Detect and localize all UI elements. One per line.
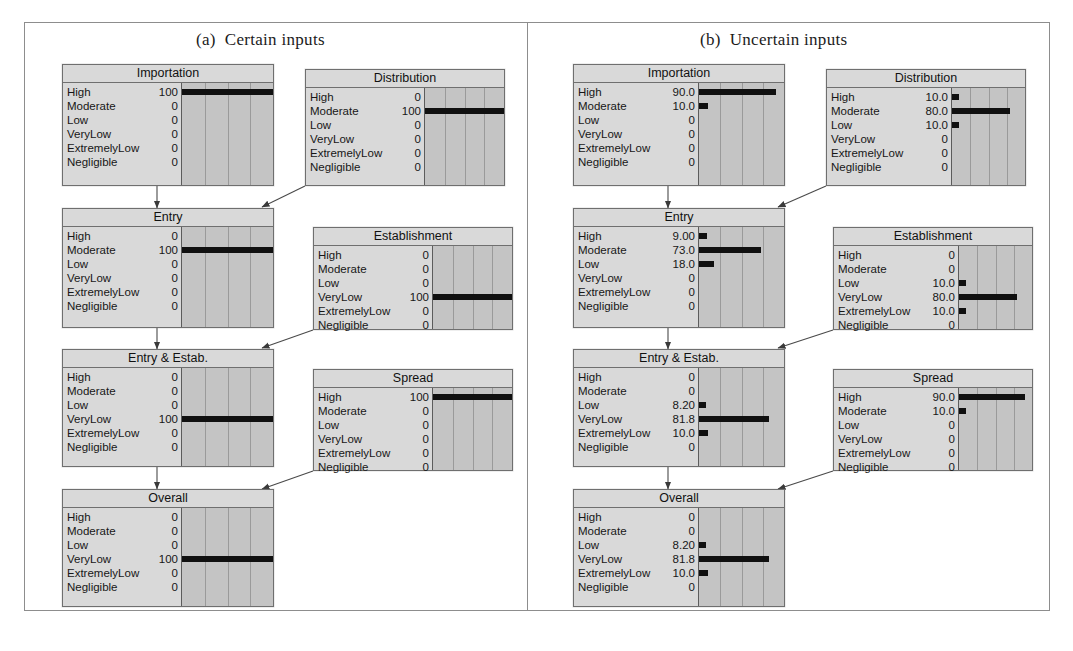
node-spread-a[interactable]: SpreadHigh100Moderate0Low0VeryLow0Extrem…	[313, 369, 513, 471]
state-row[interactable]: High0	[306, 90, 424, 104]
state-row[interactable]: VeryLow0	[834, 432, 958, 446]
state-row[interactable]: Moderate0	[574, 384, 698, 398]
state-row[interactable]: ExtremelyLow0	[574, 141, 698, 155]
state-row[interactable]: VeryLow0	[63, 271, 181, 285]
state-row[interactable]: Low0	[63, 398, 181, 412]
state-row[interactable]: High0	[63, 229, 181, 243]
state-row[interactable]: Negligible0	[306, 160, 424, 174]
state-row[interactable]: ExtremelyLow10.0	[574, 566, 698, 580]
state-row[interactable]: Negligible0	[574, 580, 698, 594]
state-row[interactable]: High0	[574, 510, 698, 524]
state-row[interactable]: Low0	[314, 276, 432, 290]
state-row[interactable]: VeryLow80.0	[834, 290, 958, 304]
state-row[interactable]: Low8.20	[574, 398, 698, 412]
state-row[interactable]: VeryLow81.8	[574, 552, 698, 566]
state-label: Low	[574, 113, 689, 127]
state-row[interactable]: High100	[314, 390, 432, 404]
state-row[interactable]: High0	[314, 248, 432, 262]
state-row[interactable]: Moderate0	[314, 262, 432, 276]
state-row[interactable]: ExtremelyLow0	[63, 426, 181, 440]
state-row[interactable]: ExtremelyLow0	[63, 566, 181, 580]
state-row[interactable]: Negligible0	[574, 440, 698, 454]
state-row[interactable]: Negligible0	[827, 160, 951, 174]
state-row[interactable]: Negligible0	[63, 299, 181, 313]
state-row[interactable]: VeryLow81.8	[574, 412, 698, 426]
state-row[interactable]: VeryLow100	[63, 552, 181, 566]
state-row[interactable]: ExtremelyLow0	[314, 304, 432, 318]
state-row[interactable]: VeryLow0	[574, 271, 698, 285]
state-row[interactable]: Low10.0	[834, 276, 958, 290]
state-row[interactable]: High90.0	[574, 85, 698, 99]
state-row[interactable]: VeryLow0	[306, 132, 424, 146]
state-row[interactable]: Negligible0	[63, 580, 181, 594]
node-entry-estab-b[interactable]: Entry & Estab.High0Moderate0Low8.20VeryL…	[573, 349, 785, 467]
state-row[interactable]: Moderate0	[314, 404, 432, 418]
node-entry-a[interactable]: EntryHigh0Moderate100Low0VeryLow0Extreme…	[62, 208, 274, 328]
state-row[interactable]: Negligible0	[834, 318, 958, 332]
state-row[interactable]: Low0	[63, 538, 181, 552]
node-overall-b[interactable]: OverallHigh0Moderate0Low8.20VeryLow81.8E…	[573, 489, 785, 607]
state-row[interactable]: High0	[834, 248, 958, 262]
state-row[interactable]: Moderate0	[574, 524, 698, 538]
node-importation-a[interactable]: ImportationHigh100Moderate0Low0VeryLow0E…	[62, 64, 274, 186]
state-row[interactable]: Low0	[306, 118, 424, 132]
state-row[interactable]: ExtremelyLow0	[63, 141, 181, 155]
state-row[interactable]: Negligible0	[574, 155, 698, 169]
state-row[interactable]: High0	[574, 370, 698, 384]
node-distribution-b[interactable]: DistributionHigh10.0Moderate80.0Low10.0V…	[826, 69, 1026, 186]
state-row[interactable]: Low0	[834, 418, 958, 432]
state-row[interactable]: ExtremelyLow0	[827, 146, 951, 160]
state-row[interactable]: ExtremelyLow10.0	[834, 304, 958, 318]
state-row[interactable]: High10.0	[827, 90, 951, 104]
node-establishment-a[interactable]: EstablishmentHigh0Moderate0Low0VeryLow10…	[313, 227, 513, 330]
state-row[interactable]: Negligible0	[314, 460, 432, 474]
state-row[interactable]: High90.0	[834, 390, 958, 404]
state-row[interactable]: Moderate73.0	[574, 243, 698, 257]
state-row[interactable]: Negligible0	[574, 299, 698, 313]
state-row[interactable]: Low0	[314, 418, 432, 432]
state-row[interactable]: Moderate0	[63, 99, 181, 113]
state-row[interactable]: VeryLow100	[63, 412, 181, 426]
state-row[interactable]: Low8.20	[574, 538, 698, 552]
state-row[interactable]: Low0	[574, 113, 698, 127]
state-row[interactable]: VeryLow0	[314, 432, 432, 446]
state-row[interactable]: Negligible0	[834, 460, 958, 474]
state-row[interactable]: ExtremelyLow0	[63, 285, 181, 299]
state-row[interactable]: Low0	[63, 257, 181, 271]
state-row[interactable]: Moderate0	[63, 384, 181, 398]
state-row[interactable]: ExtremelyLow0	[306, 146, 424, 160]
state-row[interactable]: VeryLow0	[827, 132, 951, 146]
state-row[interactable]: Low10.0	[827, 118, 951, 132]
state-row[interactable]: VeryLow0	[574, 127, 698, 141]
node-spread-b[interactable]: SpreadHigh90.0Moderate10.0Low0VeryLow0Ex…	[833, 369, 1033, 471]
node-overall-a[interactable]: OverallHigh0Moderate0Low0VeryLow100Extre…	[62, 489, 274, 607]
state-row[interactable]: High9.00	[574, 229, 698, 243]
state-row[interactable]: Moderate100	[63, 243, 181, 257]
state-row[interactable]: ExtremelyLow10.0	[574, 426, 698, 440]
state-row[interactable]: High0	[63, 370, 181, 384]
node-importation-b[interactable]: ImportationHigh90.0Moderate10.0Low0VeryL…	[573, 64, 785, 186]
state-row[interactable]: Moderate100	[306, 104, 424, 118]
bar-row	[433, 460, 512, 470]
state-row[interactable]: ExtremelyLow0	[834, 446, 958, 460]
state-row[interactable]: High0	[63, 510, 181, 524]
state-row[interactable]: High100	[63, 85, 181, 99]
state-row[interactable]: Moderate0	[834, 262, 958, 276]
node-entry-b[interactable]: EntryHigh9.00Moderate73.0Low18.0VeryLow0…	[573, 208, 785, 328]
state-row[interactable]: Negligible0	[63, 155, 181, 169]
state-row[interactable]: Moderate10.0	[574, 99, 698, 113]
state-row[interactable]: Moderate0	[63, 524, 181, 538]
state-row[interactable]: Low0	[63, 113, 181, 127]
node-establishment-b[interactable]: EstablishmentHigh0Moderate0Low10.0VeryLo…	[833, 227, 1033, 330]
node-distribution-a[interactable]: DistributionHigh0Moderate100Low0VeryLow0…	[305, 69, 505, 186]
node-entry-estab-a[interactable]: Entry & Estab.High0Moderate0Low0VeryLow1…	[62, 349, 274, 467]
state-row[interactable]: VeryLow0	[63, 127, 181, 141]
state-row[interactable]: Low18.0	[574, 257, 698, 271]
state-row[interactable]: Negligible0	[63, 440, 181, 454]
state-row[interactable]: VeryLow100	[314, 290, 432, 304]
state-row[interactable]: ExtremelyLow0	[574, 285, 698, 299]
state-row[interactable]: ExtremelyLow0	[314, 446, 432, 460]
state-row[interactable]: Moderate80.0	[827, 104, 951, 118]
state-row[interactable]: Negligible0	[314, 318, 432, 332]
state-row[interactable]: Moderate10.0	[834, 404, 958, 418]
